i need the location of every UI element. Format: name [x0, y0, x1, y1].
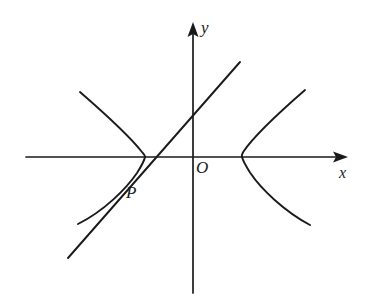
y-axis-label: y: [201, 19, 209, 36]
figure-canvas: [0, 0, 372, 301]
hyperbola-left-branch: [78, 92, 145, 224]
point-p-label: P: [126, 184, 136, 201]
secant-line-through-p: [68, 62, 240, 258]
origin-label: O: [196, 159, 208, 176]
x-axis-label: x: [339, 165, 346, 181]
math-figure: y x O P: [0, 0, 372, 301]
